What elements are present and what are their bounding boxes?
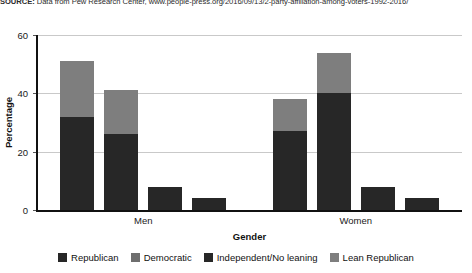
bar[interactable]: [273, 99, 307, 210]
legend-swatch-icon: [330, 253, 339, 262]
legend-swatch-icon: [58, 253, 67, 262]
x-axis-group-label: Women: [339, 215, 372, 226]
legend-item[interactable]: Independent/No leaning: [204, 252, 318, 263]
chart-legend: RepublicanDemocraticIndependent/No leani…: [0, 252, 472, 263]
source-text: Data from Pew Research Center, www.peopl…: [35, 0, 409, 6]
bar-segment-base[interactable]: [317, 93, 351, 210]
legend-swatch-icon: [131, 253, 140, 262]
legend-label: Independent/No leaning: [217, 252, 318, 263]
bar[interactable]: [192, 198, 226, 210]
gridline: [37, 35, 462, 36]
bar-segment-base[interactable]: [192, 198, 226, 210]
bar[interactable]: [60, 61, 94, 210]
legend-swatch-icon: [204, 253, 213, 262]
bar-chart: Percentage 0204060 MenWomen Gender: [0, 18, 472, 250]
source-note: SOURCE: Data from Pew Research Center, w…: [0, 0, 472, 7]
bar[interactable]: [148, 187, 182, 210]
gridline: [37, 152, 462, 153]
y-axis-tick-label: 0: [23, 205, 28, 216]
y-axis-tick-label: 60: [17, 30, 28, 41]
bar[interactable]: [361, 187, 395, 210]
legend-item[interactable]: Republican: [58, 252, 119, 263]
y-axis-label-text: Percentage: [4, 97, 15, 148]
bar-segment-lean-republican[interactable]: [317, 53, 351, 94]
bar-segment-base[interactable]: [361, 187, 395, 210]
y-axis-line: [36, 35, 38, 212]
source-label: SOURCE:: [0, 0, 35, 6]
legend-label: Democratic: [144, 252, 192, 263]
bar-segment-lean-republican[interactable]: [273, 99, 307, 131]
bar-segment-base[interactable]: [405, 198, 439, 210]
bar-segment-base[interactable]: [60, 117, 94, 210]
bar-segment-base[interactable]: [273, 131, 307, 210]
x-axis-line: [37, 210, 462, 212]
bar[interactable]: [405, 198, 439, 210]
plot-area: 0204060 MenWomen: [37, 35, 462, 228]
y-axis-tick-label: 40: [17, 88, 28, 99]
x-axis-label: Gender: [37, 231, 462, 242]
legend-item[interactable]: Democratic: [131, 252, 192, 263]
y-axis-tick-label: 20: [17, 146, 28, 157]
bar-segment-lean-republican[interactable]: [104, 90, 138, 134]
bar-segment-lean-republican[interactable]: [60, 61, 94, 116]
plot-inner: 0204060: [37, 35, 462, 210]
gridline: [37, 93, 462, 94]
bar[interactable]: [317, 53, 351, 210]
bar[interactable]: [104, 90, 138, 210]
x-axis-group-label: Men: [134, 215, 152, 226]
bar-segment-base[interactable]: [148, 187, 182, 210]
bar-segment-base[interactable]: [104, 134, 138, 210]
y-axis-label: Percentage: [2, 35, 16, 210]
legend-label: Lean Republican: [343, 252, 414, 263]
legend-item[interactable]: Lean Republican: [330, 252, 414, 263]
legend-label: Republican: [71, 252, 119, 263]
